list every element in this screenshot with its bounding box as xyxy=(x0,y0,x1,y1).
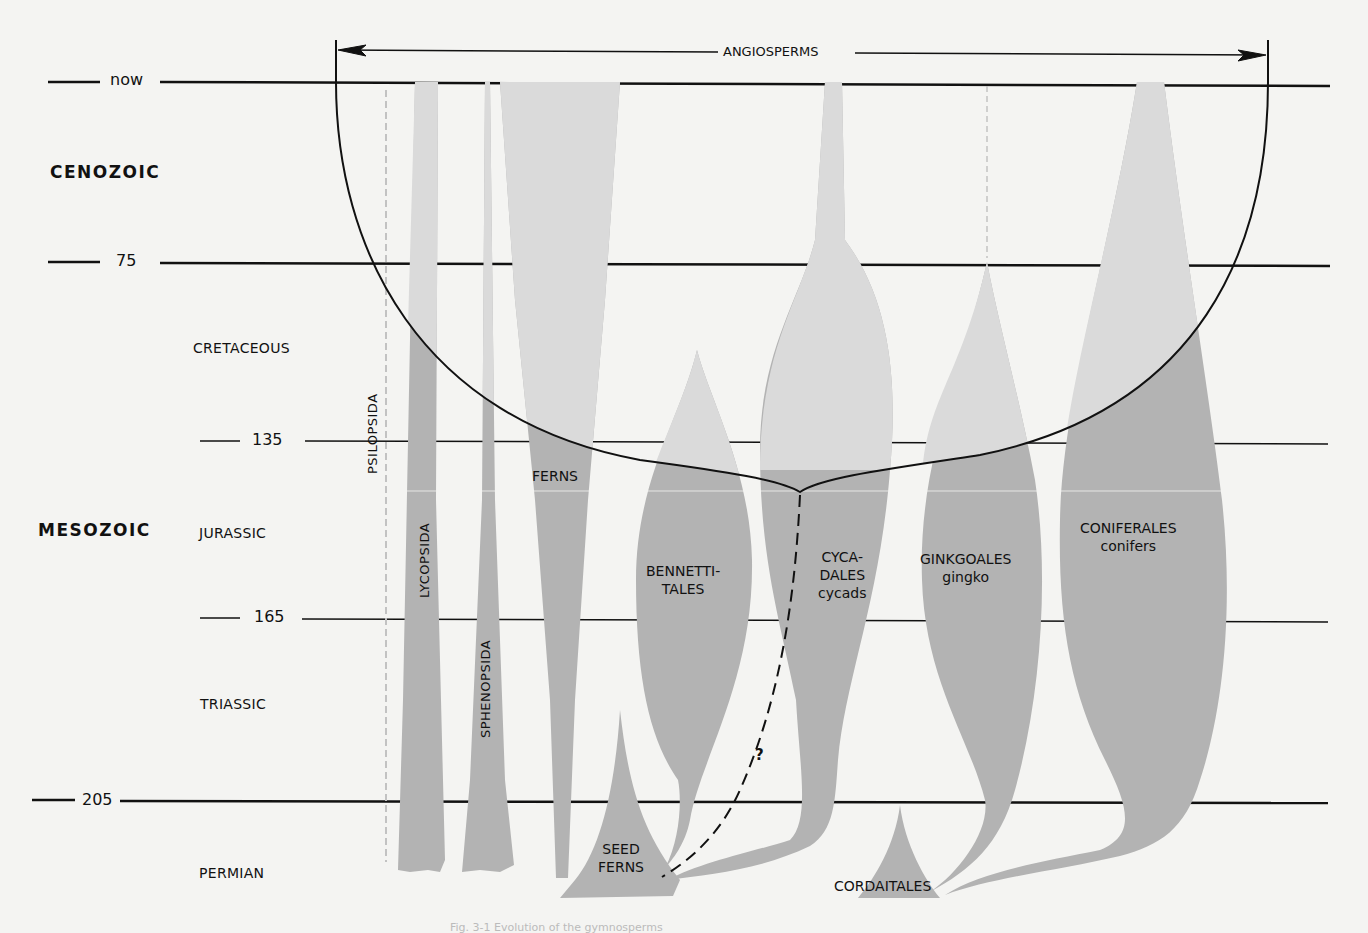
group-name: GINKGOALES xyxy=(920,551,1011,567)
uncertain-origin-mark: ? xyxy=(755,748,764,763)
group-name-line2: DALES xyxy=(819,567,865,583)
group-name-line1: SEED xyxy=(602,841,639,857)
tick-label-205: 205 xyxy=(82,792,113,808)
group-label-cordaitales: CORDAITALES xyxy=(834,877,931,895)
group-common-name: gingko xyxy=(920,568,1011,586)
group-label-sphenopsida: SPHENOPSIDA xyxy=(479,640,492,738)
period-label-cretaceous: CRETACEOUS xyxy=(193,341,290,355)
tick-label-now: now xyxy=(110,72,143,88)
period-label-permian: PERMIAN xyxy=(199,866,264,880)
group-name: CONIFERALES xyxy=(1080,520,1177,536)
group-label-ginkgoales: GINKGOALES gingko xyxy=(920,550,1011,586)
era-label-cenozoic: CENOZOIC xyxy=(50,164,160,181)
tick-label-165: 165 xyxy=(254,609,285,625)
group-label-ferns: FERNS xyxy=(532,467,578,485)
group-label-lycopsida: LYCOPSIDA xyxy=(418,523,431,598)
group-label-cycadales: CYCA- DALES cycads xyxy=(818,548,866,603)
group-label-seed-ferns: SEED FERNS xyxy=(598,840,644,876)
period-label-triassic: TRIASSIC xyxy=(200,697,266,711)
phylogeny-diagram: now 75 135 165 205 CENOZOIC MESOZOIC CRE… xyxy=(0,0,1368,933)
group-label-bennettitales: BENNETTI- TALES xyxy=(646,562,720,598)
tick-label-75: 75 xyxy=(116,253,136,269)
group-name-line2: FERNS xyxy=(598,859,644,875)
group-label-coniferales: CONIFERALES conifers xyxy=(1080,519,1177,555)
group-common-name: conifers xyxy=(1080,537,1177,555)
group-name-line1: CYCA- xyxy=(822,549,863,565)
group-name-line1: BENNETTI- xyxy=(646,563,720,579)
era-label-mesozoic: MESOZOIC xyxy=(38,522,151,539)
group-common-name: cycads xyxy=(818,584,866,602)
group-name-line2: TALES xyxy=(662,581,705,597)
diagram-canvas xyxy=(0,0,1368,933)
angiosperms-label: ANGIOSPERMS xyxy=(720,45,822,58)
figure-caption: Fig. 3-1 Evolution of the gymnosperms xyxy=(450,922,663,933)
period-label-jurassic: JURASSIC xyxy=(199,526,266,540)
tick-label-135: 135 xyxy=(252,432,283,448)
group-label-psilopsida: PSILOPSIDA xyxy=(366,393,379,474)
